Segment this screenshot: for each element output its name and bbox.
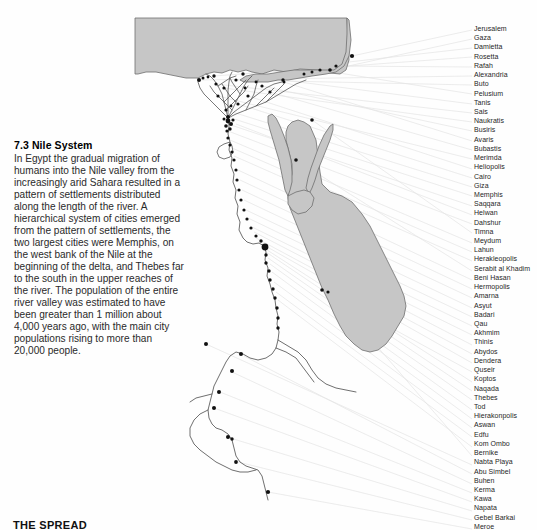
city-label: Abu Simbel	[474, 467, 537, 476]
city-label: Thinis	[474, 337, 537, 346]
city-label: Dendera	[474, 356, 537, 365]
city-label: Badari	[474, 310, 537, 319]
city-label: Naqada	[474, 384, 537, 393]
city-label: Beni Hasan	[474, 273, 537, 282]
city-label: Hermopolis	[474, 282, 537, 291]
city-label: Heliopolis	[474, 162, 537, 171]
city-label: Buto	[474, 79, 537, 88]
city-label: Qau	[474, 319, 537, 328]
caption-title: 7.3 Nile System	[14, 139, 184, 151]
city-label: Giza	[474, 181, 537, 190]
city-label: Bubastis	[474, 144, 537, 153]
city-label: Bernike	[474, 448, 537, 457]
city-label: Serabit al Khadim	[474, 264, 537, 273]
city-label: Meroe	[474, 522, 537, 530]
city-label: Rafah	[474, 61, 537, 70]
city-label: Kerma	[474, 485, 537, 494]
city-label: Merimda	[474, 153, 537, 162]
city-label: Buhen	[474, 476, 537, 485]
city-label: Herakleopolis	[474, 254, 537, 263]
city-label: Rosetta	[474, 52, 537, 61]
city-label: Tanis	[474, 98, 537, 107]
city-label: Kom Ombo	[474, 439, 537, 448]
city-label: Abydos	[474, 347, 537, 356]
city-label: Lahun	[474, 245, 537, 254]
mediterranean-sea	[135, 18, 349, 78]
city-label: Aswan	[474, 420, 537, 429]
city-label: Koptos	[474, 374, 537, 383]
map-figure-page: 7.3 Nile System In Egypt the gradual mig…	[0, 0, 537, 530]
city-label: Alexandria	[474, 70, 537, 79]
city-label: Avaris	[474, 135, 537, 144]
nile-river	[190, 118, 356, 500]
city-label: Damietta	[474, 42, 537, 51]
city-label: Thebes	[474, 393, 537, 402]
city-label: Gaza	[474, 33, 537, 42]
city-label: Busiris	[474, 125, 537, 134]
city-label: Dahshur	[474, 218, 537, 227]
city-label: Helwan	[474, 208, 537, 217]
city-label: Timna	[474, 227, 537, 236]
city-label: Naukratis	[474, 116, 537, 125]
city-label: Edfu	[474, 430, 537, 439]
city-label: Meydum	[474, 236, 537, 245]
city-label: Akhmim	[474, 328, 537, 337]
city-label: Cairo	[474, 172, 537, 181]
city-label: Napata	[474, 503, 537, 512]
city-label: Kawa	[474, 494, 537, 503]
city-label: Sais	[474, 107, 537, 116]
city-label: Jerusalem	[474, 24, 537, 33]
city-label: Gebel Barkai	[474, 513, 537, 522]
caption-body: In Egypt the gradual migration of humans…	[14, 153, 184, 357]
city-label: Nabta Playa	[474, 457, 537, 466]
city-label: Saqqara	[474, 199, 537, 208]
red-sea	[286, 120, 406, 352]
city-label-column: JerusalemGazaDamiettaRosettaRafahAlexand…	[474, 24, 537, 530]
city-label: Pelusium	[474, 89, 537, 98]
city-label: Asyut	[474, 301, 537, 310]
city-label: Amarna	[474, 291, 537, 300]
footer-section-title: THE SPREAD	[13, 519, 87, 530]
city-label: Hierakonpolis	[474, 411, 537, 420]
city-label: Quseir	[474, 365, 537, 374]
caption-block: 7.3 Nile System In Egypt the gradual mig…	[14, 139, 184, 357]
city-label: Tod	[474, 402, 537, 411]
city-label: Memphis	[474, 190, 537, 199]
